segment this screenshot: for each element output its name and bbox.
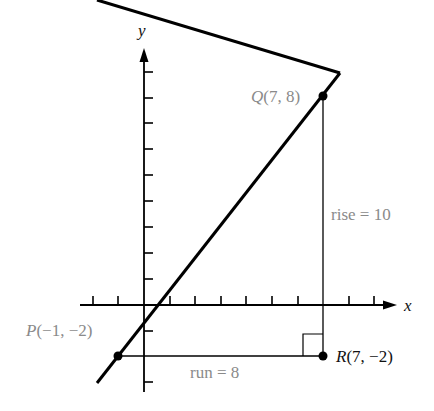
label-q: Q(7, 8) [251,87,300,106]
label-rise: rise = 10 [331,205,391,224]
x-axis: x [80,296,412,315]
x-axis-label: x [403,296,412,315]
point-p [114,352,123,361]
point-r [319,352,328,361]
point-q [319,92,328,101]
slope-diagram: y x Q(7, 8) P(−1, −2) R(7, −2) ris [0,0,434,411]
label-r: R(7, −2) [335,347,393,366]
line-pq [97,0,340,73]
y-axis-label: y [136,21,146,40]
y-axis: y [136,21,153,392]
y-axis-arrow-icon [140,48,149,62]
label-p: P(−1, −2) [25,321,92,340]
label-run: run = 8 [190,363,239,382]
x-axis-arrow-icon [383,301,397,310]
